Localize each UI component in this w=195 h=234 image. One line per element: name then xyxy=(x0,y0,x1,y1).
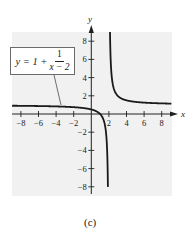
y-tick-label: −4 xyxy=(78,145,88,155)
y-tick-label: 8 xyxy=(83,36,87,46)
y-tick-label: −2 xyxy=(78,127,87,137)
fraction-numerator: 1 xyxy=(55,50,64,62)
function-label-box: y = 1 + 1 x − 2 xyxy=(10,47,75,75)
plot-area: −8−6−4−224688642−2−4−6−8 x y (c) xyxy=(0,0,195,234)
y-tick-label: −6 xyxy=(78,164,87,174)
x-tick-label: 8 xyxy=(160,118,164,128)
fraction-denominator: x − 2 xyxy=(49,62,69,73)
x-tick-label: −4 xyxy=(52,118,62,128)
function-graph-figure: −8−6−4−224688642−2−4−6−8 x y (c) y = 1 +… xyxy=(0,0,195,234)
y-axis-arrow-icon xyxy=(89,25,94,33)
x-axis-label: x xyxy=(180,109,185,119)
y-tick-label: 4 xyxy=(83,73,88,83)
equation-fraction: 1 x − 2 xyxy=(49,50,69,72)
x-tick-label: 2 xyxy=(107,118,111,128)
y-tick-label: 6 xyxy=(83,54,87,64)
y-axis-label: y xyxy=(87,14,92,24)
x-tick-label: −6 xyxy=(34,118,43,128)
equation-lhs: y = 1 + xyxy=(15,56,47,67)
figure-caption: (c) xyxy=(84,216,97,229)
x-tick-label: 6 xyxy=(142,118,146,128)
y-tick-label: −8 xyxy=(78,182,87,192)
x-tick-label: −8 xyxy=(16,118,25,128)
x-axis-arrow-icon xyxy=(170,111,178,116)
y-tick-label: 2 xyxy=(83,91,87,101)
